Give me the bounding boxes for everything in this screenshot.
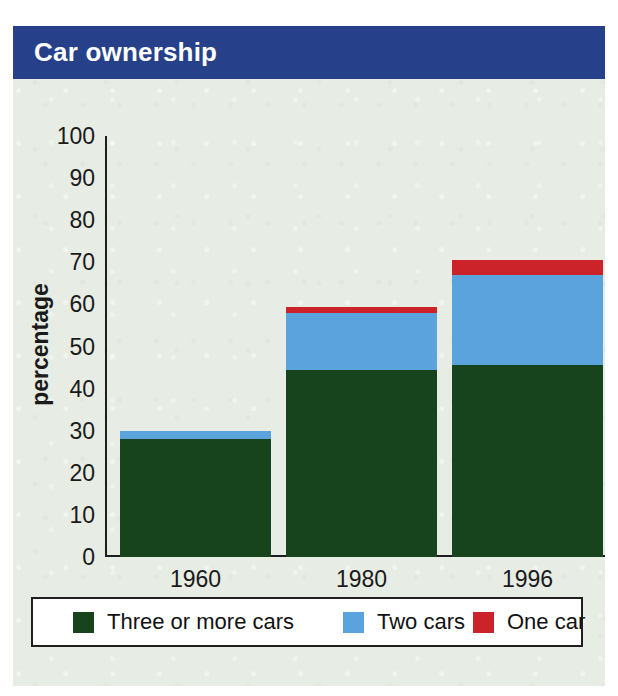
- y-axis-tick: 20: [13, 462, 95, 485]
- bar-1980: [286, 307, 437, 557]
- y-axis-tick: 80: [13, 209, 95, 232]
- bar-segment-three-or-more-cars: [286, 370, 437, 557]
- bars-layer: [107, 136, 605, 557]
- title-banner: Car ownership: [13, 26, 605, 79]
- bar-segment-three-or-more-cars: [452, 365, 603, 557]
- page-title: Car ownership: [34, 37, 217, 68]
- screenshot-root: Car ownership percentage 100908070605040…: [0, 0, 618, 696]
- y-axis-tick: 10: [13, 504, 95, 527]
- legend-label: Three or more cars: [107, 609, 294, 635]
- bar-segment-two-cars: [120, 431, 271, 439]
- bar-segment-two-cars: [452, 275, 603, 366]
- y-axis-tick: 100: [13, 125, 95, 148]
- x-axis-tick-1980: 1980: [286, 566, 437, 593]
- bar-segment-one-car: [452, 260, 603, 275]
- legend-swatch-icon: [343, 612, 364, 633]
- legend-item-one-car[interactable]: One car: [473, 609, 585, 635]
- y-axis-tick: 40: [13, 378, 95, 401]
- bar-segment-three-or-more-cars: [120, 439, 271, 557]
- y-axis-tick: 0: [13, 546, 95, 569]
- y-axis-tick: 30: [13, 420, 95, 443]
- x-axis-tick-1960: 1960: [120, 566, 271, 593]
- chart-plot-area: percentage 1009080706050403020100 Househ…: [13, 79, 605, 686]
- x-axis-tick-1996: 1996: [452, 566, 603, 593]
- y-axis-tick: 60: [13, 293, 95, 316]
- chart-legend: Three or more carsTwo carsOne car: [31, 597, 583, 647]
- y-axis-tick: 90: [13, 167, 95, 190]
- y-axis-tick-labels: 1009080706050403020100: [13, 79, 95, 686]
- legend-label: One car: [507, 609, 585, 635]
- y-axis-tick: 50: [13, 336, 95, 359]
- y-axis-tick: 70: [13, 251, 95, 274]
- legend-swatch-icon: [473, 612, 494, 633]
- bar-1996: [452, 260, 603, 557]
- bar-1960: [120, 431, 271, 557]
- legend-swatch-icon: [73, 612, 94, 633]
- legend-label: Two cars: [377, 609, 465, 635]
- legend-item-two-cars[interactable]: Two cars: [343, 609, 465, 635]
- legend-item-three-or-more-cars[interactable]: Three or more cars: [73, 609, 294, 635]
- bar-segment-two-cars: [286, 313, 437, 370]
- figure-card: Car ownership percentage 100908070605040…: [13, 26, 605, 686]
